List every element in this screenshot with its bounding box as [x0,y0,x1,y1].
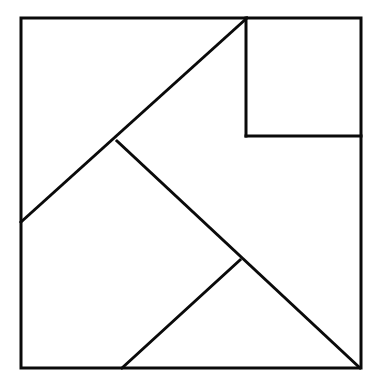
tangram-diagram: Tangram dissection square [0,0,380,389]
piece-small-square-fill [246,18,361,136]
tangram-figure-root: Tangram dissection square [0,0,380,389]
